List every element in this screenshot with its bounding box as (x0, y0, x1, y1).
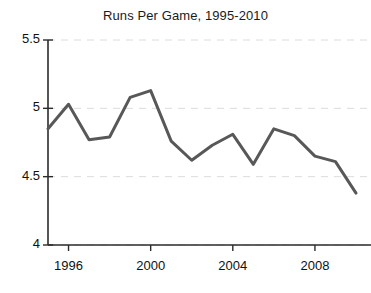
gridlines (48, 40, 371, 245)
chart-container: Runs Per Game, 1995-2010 5.554.54 199620… (0, 0, 371, 293)
x-axis-tick-label: 2008 (285, 258, 345, 273)
x-axis-tick-label: 2000 (121, 258, 181, 273)
x-axis-tick-label: 2004 (203, 258, 263, 273)
x-axis-tick-label: 1996 (39, 258, 99, 273)
axis-ticks (43, 40, 315, 251)
axes (48, 40, 371, 245)
line-chart-plot (0, 0, 371, 293)
y-axis-tick-label: 4.5 (22, 168, 40, 183)
series-line-runs-per-game (48, 91, 356, 194)
data-series (48, 91, 356, 194)
y-axis-tick-label: 5 (33, 99, 40, 114)
y-axis-tick-label: 5.5 (22, 31, 40, 46)
y-axis-tick-label: 4 (33, 236, 40, 251)
